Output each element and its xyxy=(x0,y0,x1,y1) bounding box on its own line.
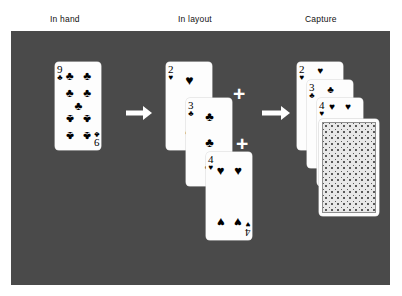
hearts-icon: ♥ xyxy=(234,163,242,176)
card-back-face-down xyxy=(319,119,379,216)
clubs-icon: ♣ xyxy=(205,109,214,122)
column-header-in-hand: In hand xyxy=(50,14,80,24)
figure-canvas: In hand In layout Capture 9 ♣ 9 ♣ ♣ ♣ ♣ … xyxy=(0,0,402,296)
clubs-icon: ♣ xyxy=(83,87,91,99)
plus-sign-1: + xyxy=(233,83,245,104)
column-header-capture: Capture xyxy=(305,14,337,24)
card-face-pips: ♣ ♣ ♣ ♣ ♣ ♣ ♣ ♣ ♣ xyxy=(55,62,101,150)
card-face-pips: ♥ ♥ ♥ ♥ xyxy=(206,152,252,240)
hearts-icon: ♥ xyxy=(329,102,335,112)
card-9-of-clubs: 9 ♣ 9 ♣ ♣ ♣ ♣ ♣ ♣ ♣ ♣ ♣ ♣ xyxy=(55,62,101,150)
clubs-icon: ♣ xyxy=(66,130,74,142)
hearts-icon: ♥ xyxy=(185,73,193,87)
clubs-icon: ♣ xyxy=(327,85,334,95)
arrow-head xyxy=(143,106,152,120)
clubs-icon: ♣ xyxy=(66,113,74,125)
plus-sign-2: + xyxy=(236,133,248,154)
card-4-of-hearts-layout: 4 ♥ 4 ♥ ♥ ♥ ♥ ♥ xyxy=(206,152,252,240)
hearts-icon: ♥ xyxy=(234,216,242,229)
arrow-layout-to-capture xyxy=(262,106,290,120)
clubs-icon: ♣ xyxy=(205,136,214,149)
arrow-shaft xyxy=(262,111,282,116)
hearts-icon: ♥ xyxy=(345,102,351,112)
clubs-icon: ♣ xyxy=(75,100,83,112)
column-header-in-layout: In layout xyxy=(178,14,212,24)
hearts-icon: ♥ xyxy=(217,216,225,229)
arrow-head xyxy=(281,106,290,120)
clubs-icon: ♣ xyxy=(83,113,91,125)
hearts-icon: ♥ xyxy=(217,163,225,176)
clubs-icon: ♣ xyxy=(83,70,91,82)
clubs-icon: ♣ xyxy=(83,130,91,142)
arrow-hand-to-layout xyxy=(126,106,152,120)
clubs-icon: ♣ xyxy=(66,87,74,99)
hearts-icon: ♥ xyxy=(317,66,323,76)
arrow-shaft xyxy=(126,111,144,116)
clubs-icon: ♣ xyxy=(66,70,74,82)
card-back-pattern xyxy=(322,122,376,213)
